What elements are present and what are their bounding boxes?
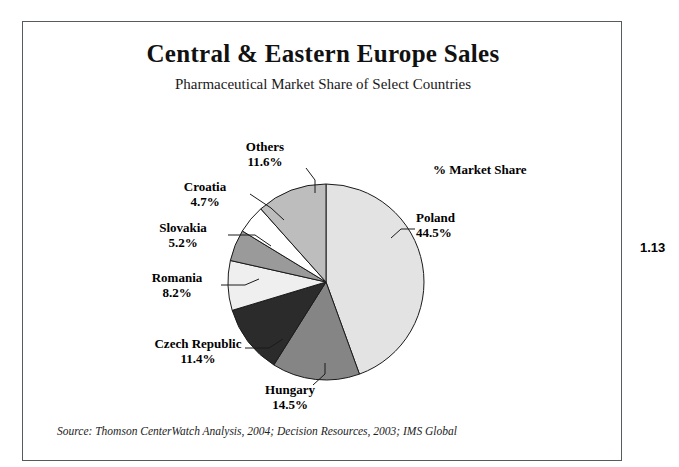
slice-label-czech-republic-value: 11.4%	[133, 351, 263, 366]
pie-slice-hungary	[274, 282, 360, 380]
slice-label-romania-value: 8.2%	[127, 285, 227, 300]
page-title: Central & Eastern Europe Sales	[23, 40, 623, 68]
pie-slice-croatia	[242, 209, 326, 282]
chart-subtitle: Pharmaceutical Market Share of Select Co…	[23, 76, 623, 93]
slice-label-hungary-value: 14.5%	[245, 397, 335, 412]
slice-label-slovakia: Slovakia 5.2%	[133, 220, 233, 251]
leader-line-poland	[391, 229, 415, 238]
slice-label-poland-name: Poland	[416, 210, 455, 225]
slice-label-croatia-value: 4.7%	[155, 194, 255, 209]
slice-label-hungary-name: Hungary	[245, 382, 335, 397]
figure-frame: Central & Eastern Europe Sales Pharmaceu…	[22, 21, 622, 461]
slice-label-romania-name: Romania	[127, 270, 227, 285]
source-note: Source: Thomson CenterWatch Analysis, 20…	[57, 425, 457, 437]
pie-slice-poland	[326, 184, 424, 374]
slice-label-hungary: Hungary 14.5%	[245, 382, 335, 413]
slice-label-romania: Romania 8.2%	[127, 270, 227, 301]
slice-label-poland: Poland 44.5%	[416, 210, 455, 241]
slice-label-czech-republic-name: Czech Republic	[133, 336, 263, 351]
slice-label-others: Others 11.6%	[215, 139, 315, 170]
pie-slice-romania	[228, 260, 326, 310]
slice-label-croatia-name: Croatia	[155, 179, 255, 194]
slice-label-croatia: Croatia 4.7%	[155, 179, 255, 210]
slice-label-slovakia-value: 5.2%	[133, 235, 233, 250]
slice-label-others-value: 11.6%	[215, 154, 315, 169]
pie-slice-others	[261, 184, 326, 282]
slice-label-czech-republic: Czech Republic 11.4%	[133, 336, 263, 367]
slice-label-slovakia-name: Slovakia	[133, 220, 233, 235]
slice-label-others-name: Others	[215, 139, 315, 154]
pie-slice-slovakia	[230, 231, 326, 282]
leader-line-others	[306, 168, 315, 193]
page-number: 1.13	[640, 240, 665, 255]
leader-line-slovakia	[228, 235, 271, 246]
slice-label-poland-value: 44.5%	[416, 225, 455, 240]
market-share-caption: % Market Share	[433, 162, 527, 178]
leader-line-croatia	[250, 194, 284, 220]
